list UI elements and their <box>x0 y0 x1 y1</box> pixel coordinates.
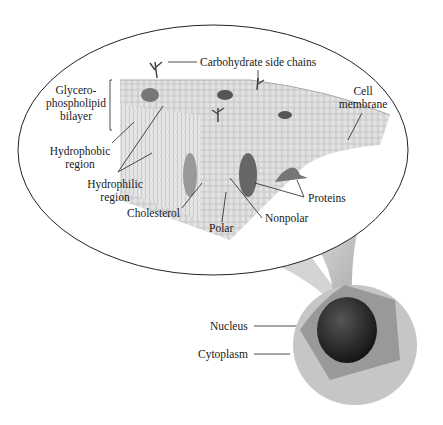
label-hydrophilic-region: Hydrophilic region <box>82 178 148 204</box>
label-cholesterol: Cholesterol <box>127 207 180 220</box>
label-cytoplasm: Cytoplasm <box>198 348 248 361</box>
label-bilayer: Glycero- phospholipid bilayer <box>40 84 112 123</box>
label-polar: Polar <box>209 222 233 235</box>
label-nonpolar: Nonpolar <box>265 212 308 225</box>
label-cell-membrane: Cell membrane <box>335 85 391 111</box>
label-hydrophobic-region: Hydrophobic region <box>45 145 115 171</box>
label-nucleus: Nucleus <box>210 320 248 333</box>
cholesterol-icon <box>183 153 197 197</box>
cell <box>293 285 417 405</box>
label-carbohydrate-side-chains: Carbohydrate side chains <box>200 56 316 69</box>
nucleus-icon <box>317 297 377 363</box>
protein-icon <box>239 153 257 197</box>
label-proteins: Proteins <box>308 192 346 205</box>
protein-icon <box>141 88 159 102</box>
